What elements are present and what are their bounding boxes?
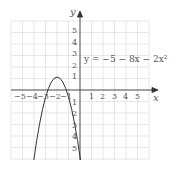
y-tick-labels: 5 4 3 2 1 1 2 3 4 5	[72, 26, 77, 153]
y-tick: 1	[72, 72, 77, 81]
x-tick: −5	[14, 92, 26, 101]
y-tick: 2	[72, 109, 77, 118]
y-tick: 1	[72, 98, 77, 107]
y-tick: 5	[72, 26, 77, 35]
x-tick: −1	[60, 92, 72, 101]
y-tick: 3	[72, 49, 77, 58]
y-tick: 3	[72, 121, 77, 130]
parabola-chart: −5 −4 −3 −2 −1 1 2 3 4 5 5 4 3 2 1 1 2 3…	[0, 0, 178, 169]
x-tick: 1	[89, 92, 94, 101]
y-axis-label: y	[69, 6, 76, 17]
x-tick: 4	[123, 92, 128, 101]
axes	[11, 11, 158, 160]
equation-label: y = −5 − 8x − 2x²	[83, 54, 168, 64]
x-axis-label: x	[153, 92, 159, 103]
y-tick: 4	[72, 132, 77, 141]
x-tick: 2	[100, 92, 105, 101]
y-tick: 2	[72, 61, 77, 70]
y-tick: 5	[72, 144, 77, 153]
y-tick: 4	[72, 38, 77, 47]
x-tick: −3	[37, 92, 49, 101]
x-tick: 3	[112, 92, 117, 101]
x-tick: 5	[135, 92, 140, 101]
